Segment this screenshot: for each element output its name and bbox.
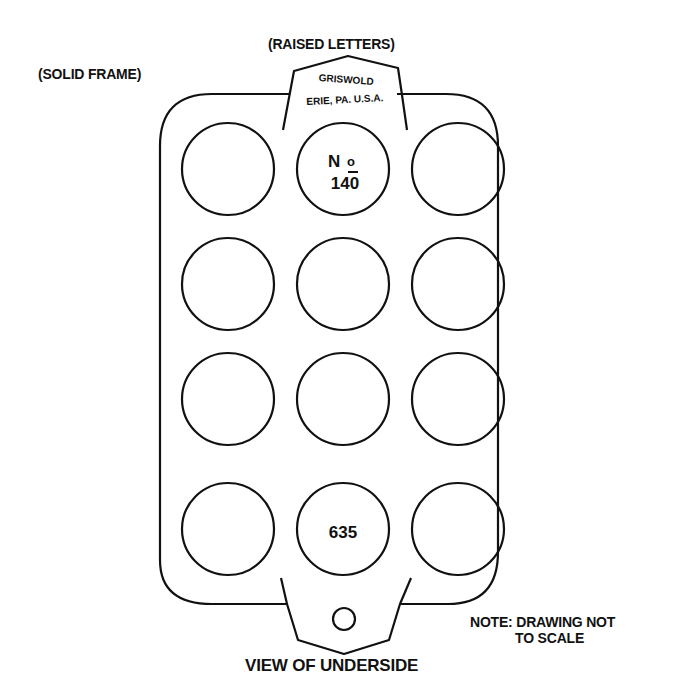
bottom-handle-right (400, 578, 411, 604)
hanging-hole (333, 608, 355, 630)
view-caption: VIEW OF UNDERSIDE (245, 656, 418, 676)
pan-drawing: GRISWOLD ERIE, PA. U.S.A. N o 140 635 (0, 0, 677, 697)
maker-mark: GRISWOLD (318, 72, 374, 87)
scale-note-line2: TO SCALE (470, 630, 615, 646)
raised-letters-label: (RAISED LETTERS) (268, 36, 395, 52)
cup-r2-c2 (297, 238, 389, 330)
cup-r1-c1 (182, 123, 274, 215)
number-prefix-o: o (347, 154, 355, 169)
cup-r2-c1 (182, 238, 274, 330)
cup-r3-c1 (182, 353, 274, 445)
top-handle (283, 56, 407, 130)
cup-r3-c3 (412, 353, 504, 445)
scale-note: NOTE: DRAWING NOT TO SCALE (470, 614, 615, 646)
cup-r2-c3 (412, 238, 504, 330)
scale-note-line1: NOTE: DRAWING NOT (470, 614, 615, 630)
model-number: 140 (331, 174, 359, 193)
location-mark: ERIE, PA. U.S.A. (306, 92, 384, 107)
solid-frame-label: (SOLID FRAME) (38, 66, 141, 82)
cup-r1-c3 (412, 123, 504, 215)
bottom-handle-left (281, 578, 287, 604)
cup-r4-c1 (182, 483, 274, 575)
number-prefix: N (328, 152, 340, 171)
pattern-number: 635 (329, 523, 357, 542)
cup-r1-c2 (297, 123, 389, 215)
cup-r4-c3 (412, 483, 504, 575)
pan-frame (160, 94, 498, 654)
cup-r3-c2 (297, 353, 389, 445)
